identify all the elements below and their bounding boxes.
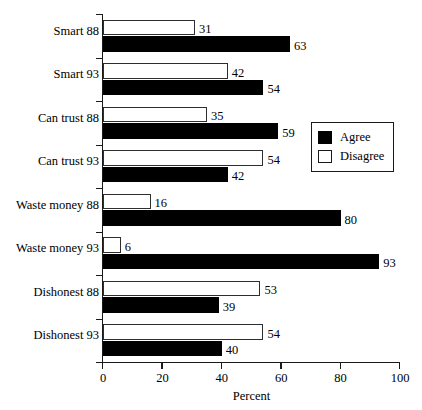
x-tick: [399, 362, 400, 369]
x-tick: [102, 362, 103, 369]
bar-value-disagree-can-trust-88: 35: [211, 109, 224, 123]
category-label-group: Smart 88 Smart 93 Can trust 88 Can trust…: [0, 0, 99, 410]
x-tick-label-0: 0: [83, 371, 123, 385]
y-tick: [96, 188, 103, 189]
x-tick-label-60: 60: [261, 371, 301, 385]
bar-agree-smart-88: [103, 36, 290, 52]
legend-swatch-disagree-icon: [318, 150, 332, 163]
x-tick-label-80: 80: [321, 371, 361, 385]
y-tick: [96, 145, 103, 146]
category-label-can-trust-88: Can trust 88: [3, 111, 99, 125]
x-axis-title: Percent: [103, 389, 400, 403]
x-tick-label-40: 40: [202, 371, 242, 385]
legend-label-disagree: Disagree: [340, 149, 384, 164]
bar-value-agree-dishonest-88: 39: [223, 300, 236, 314]
category-label-can-trust-93: Can trust 93: [3, 154, 99, 168]
category-label-dishonest-88: Dishonest 88: [3, 285, 99, 299]
bar-chart: Smart 88 Smart 93 Can trust 88 Can trust…: [0, 0, 422, 410]
legend-label-agree: Agree: [340, 130, 371, 145]
bar-disagree-can-trust-88: [103, 107, 207, 123]
y-tick: [96, 232, 103, 233]
legend: Agree Disagree: [311, 122, 394, 172]
bar-disagree-dishonest-88: [103, 281, 260, 297]
bar-value-agree-waste-money-88: 80: [345, 213, 358, 227]
bar-disagree-smart-93: [103, 63, 228, 79]
bar-agree-can-trust-93: [103, 167, 228, 183]
legend-swatch-agree-icon: [318, 131, 332, 144]
bar-value-agree-waste-money-93: 93: [383, 256, 396, 270]
bar-agree-smart-93: [103, 80, 263, 96]
bar-disagree-can-trust-93: [103, 150, 263, 166]
x-tick-label-100: 100: [380, 371, 420, 385]
bar-disagree-waste-money-93: [103, 237, 121, 253]
category-label-dishonest-93: Dishonest 93: [3, 328, 99, 342]
category-label-waste-money-88: Waste money 88: [3, 198, 99, 212]
bar-value-agree-can-trust-88: 59: [282, 126, 295, 140]
bar-value-disagree-dishonest-88: 53: [264, 283, 277, 297]
bar-disagree-waste-money-88: [103, 194, 151, 210]
bar-agree-dishonest-93: [103, 341, 222, 357]
bar-value-agree-smart-88: 63: [294, 39, 307, 53]
bar-value-disagree-can-trust-93: 54: [267, 153, 280, 167]
bar-value-agree-can-trust-93: 42: [232, 169, 245, 183]
bar-value-disagree-smart-93: 42: [232, 66, 245, 80]
bar-agree-waste-money-88: [103, 210, 341, 226]
x-tick: [340, 362, 341, 369]
x-tick-label-20: 20: [142, 371, 182, 385]
bar-value-disagree-dishonest-93: 54: [267, 327, 280, 341]
category-label-waste-money-93: Waste money 93: [3, 241, 99, 255]
bar-agree-waste-money-93: [103, 254, 379, 270]
bar-disagree-dishonest-93: [103, 324, 263, 340]
y-tick: [96, 101, 103, 102]
y-tick: [96, 275, 103, 276]
x-tick: [221, 362, 222, 369]
x-tick: [161, 362, 162, 369]
y-tick: [96, 14, 103, 15]
bar-value-agree-dishonest-93: 40: [226, 343, 239, 357]
category-label-smart-93: Smart 93: [3, 67, 99, 81]
bar-value-disagree-waste-money-88: 16: [155, 196, 168, 210]
bar-value-disagree-waste-money-93: 6: [125, 240, 131, 254]
bar-value-disagree-smart-88: 31: [199, 22, 212, 36]
y-tick: [96, 319, 103, 320]
y-tick: [96, 58, 103, 59]
x-tick: [280, 362, 281, 369]
bar-agree-dishonest-88: [103, 297, 219, 313]
x-axis-spine: [102, 362, 400, 363]
bar-agree-can-trust-88: [103, 123, 278, 139]
bar-value-agree-smart-93: 54: [267, 82, 280, 96]
category-label-smart-88: Smart 88: [3, 24, 99, 38]
plot-area: 3163425435595442168069353395440: [103, 14, 400, 362]
bar-disagree-smart-88: [103, 20, 195, 36]
